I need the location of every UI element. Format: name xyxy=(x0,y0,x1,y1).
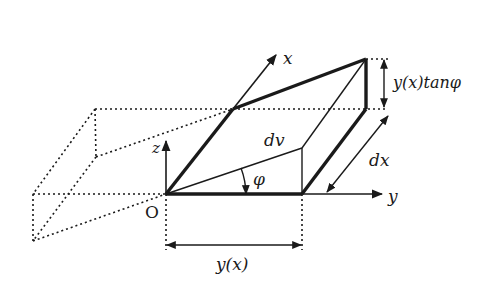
axes xyxy=(166,55,382,194)
wedge-volume-diagram: x y z O dv φ dx y(x)tanφ y(x) xyxy=(0,0,482,290)
dx-label: dx xyxy=(369,150,390,170)
z-axis-label: z xyxy=(151,139,160,157)
origin-label: O xyxy=(145,202,159,222)
volume-element-label: dv xyxy=(264,130,285,150)
height-label: y(x)tanφ xyxy=(392,73,462,92)
y-axis-label: y xyxy=(387,186,398,206)
angle-arc xyxy=(241,168,246,194)
volume-element-outline xyxy=(166,59,366,194)
inner-slope-lines xyxy=(166,59,366,194)
dotted-solid-outline xyxy=(33,59,388,250)
base-width-label: y(x) xyxy=(215,254,248,274)
x-axis-label: x xyxy=(283,48,293,68)
angle-label: φ xyxy=(253,169,265,189)
